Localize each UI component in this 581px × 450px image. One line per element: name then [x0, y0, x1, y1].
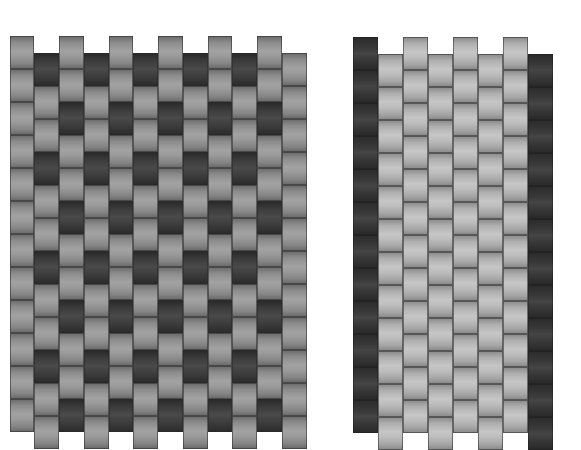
- weave-brick: [353, 136, 378, 169]
- weave-brick: [503, 202, 528, 235]
- weave-brick: [403, 268, 428, 301]
- weave-brick: [503, 103, 528, 136]
- weave-brick: [378, 318, 403, 351]
- weave-brick: [453, 301, 478, 334]
- weave-brick: [503, 136, 528, 169]
- weave-brick: [478, 120, 503, 153]
- weave-brick: [478, 153, 503, 186]
- weave-brick: [478, 54, 503, 87]
- weave-brick: [503, 367, 528, 400]
- weave-brick: [503, 301, 528, 334]
- weave-brick: [528, 285, 553, 318]
- weave-brick: [428, 384, 453, 417]
- weave-brick: [478, 186, 503, 219]
- weave-brick: [378, 384, 403, 417]
- weave-brick: [528, 219, 553, 252]
- weave-brick: [353, 367, 378, 400]
- weave-brick: [478, 318, 503, 351]
- weave-brick: [428, 417, 453, 450]
- weave-brick: [353, 268, 378, 301]
- weave-brick: [453, 169, 478, 202]
- weave-brick: [428, 318, 453, 351]
- weave-brick: [503, 334, 528, 367]
- weave-brick: [503, 268, 528, 301]
- weave-brick: [528, 153, 553, 186]
- weave-brick: [528, 54, 553, 87]
- weave-brick: [428, 351, 453, 384]
- weave-brick: [453, 202, 478, 235]
- weave-brick: [428, 87, 453, 120]
- weave-brick: [503, 235, 528, 268]
- weave-brick: [403, 103, 428, 136]
- weave-brick: [503, 70, 528, 103]
- weave-brick: [478, 87, 503, 120]
- weave-brick: [378, 54, 403, 87]
- weave-brick: [478, 219, 503, 252]
- weave-brick: [503, 169, 528, 202]
- weave-brick: [528, 384, 553, 417]
- weave-brick: [453, 268, 478, 301]
- weave-brick: [478, 417, 503, 450]
- weave-brick: [353, 202, 378, 235]
- weave-brick: [378, 120, 403, 153]
- weave-brick: [403, 70, 428, 103]
- weave-brick: [403, 301, 428, 334]
- weave-brick: [428, 120, 453, 153]
- weave-brick: [428, 153, 453, 186]
- weave-brick: [478, 351, 503, 384]
- weave-brick: [353, 169, 378, 202]
- weave-brick: [503, 37, 528, 70]
- weave-brick: [353, 334, 378, 367]
- weave-brick: [353, 70, 378, 103]
- weave-brick: [353, 37, 378, 70]
- weave-brick: [403, 169, 428, 202]
- weave-brick: [478, 384, 503, 417]
- weave-brick: [378, 351, 403, 384]
- weave-brick: [428, 54, 453, 87]
- weave-brick: [478, 252, 503, 285]
- weave-brick: [403, 136, 428, 169]
- weave-brick: [353, 235, 378, 268]
- weave-brick: [378, 87, 403, 120]
- weave-brick: [403, 367, 428, 400]
- weave-brick: [528, 318, 553, 351]
- weave-brick: [378, 153, 403, 186]
- weave-brick: [528, 87, 553, 120]
- weave-brick: [353, 301, 378, 334]
- weave-brick: [453, 136, 478, 169]
- weave-brick: [403, 37, 428, 70]
- weave-brick: [428, 252, 453, 285]
- weave-brick: [378, 219, 403, 252]
- weave-brick: [453, 400, 478, 433]
- weave-brick: [528, 252, 553, 285]
- weave-brick: [453, 103, 478, 136]
- weave-brick: [453, 37, 478, 70]
- weave-brick: [528, 417, 553, 450]
- weave-brick: [428, 186, 453, 219]
- weave-brick: [453, 367, 478, 400]
- weave-brick: [403, 334, 428, 367]
- weave-brick: [478, 285, 503, 318]
- weave-brick: [378, 252, 403, 285]
- weave-brick: [353, 400, 378, 433]
- weave-brick: [528, 120, 553, 153]
- weave-brick: [403, 400, 428, 433]
- weave-brick: [528, 186, 553, 219]
- weave-brick: [378, 186, 403, 219]
- weave-brick: [453, 334, 478, 367]
- weave-brick: [428, 219, 453, 252]
- weave-brick: [403, 202, 428, 235]
- weave-brick: [353, 103, 378, 136]
- weave-brick: [453, 235, 478, 268]
- weave-brick: [528, 351, 553, 384]
- weave-brick: [378, 417, 403, 450]
- weave-brick: [403, 235, 428, 268]
- weave-brick: [428, 285, 453, 318]
- weave-brick: [503, 400, 528, 433]
- weave-brick: [453, 70, 478, 103]
- weave-brick: [378, 285, 403, 318]
